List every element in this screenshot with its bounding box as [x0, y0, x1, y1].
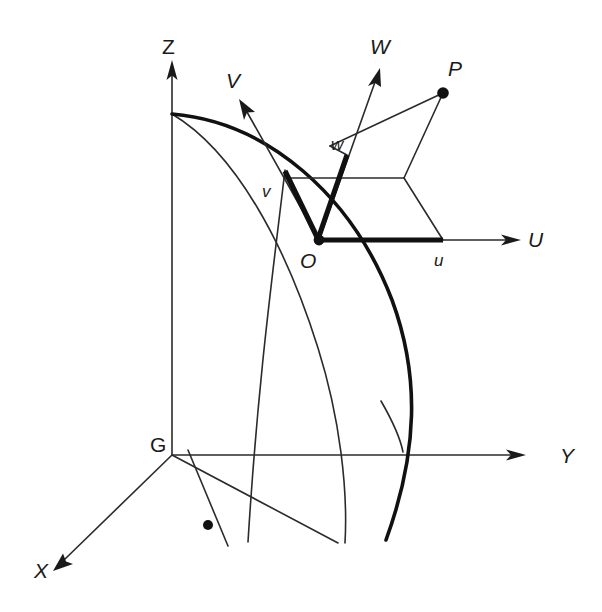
origin-g-label: G	[150, 433, 166, 456]
normal-line-at-marker	[188, 450, 228, 546]
base-edge-g-to-surface	[172, 455, 338, 543]
local-axes-group	[239, 68, 521, 246]
edge-v-right	[404, 178, 443, 240]
surface-generator-thin-right	[248, 170, 285, 542]
point-p-label: P	[448, 57, 462, 80]
point-o-dot	[314, 235, 325, 246]
component-w-label: w	[331, 135, 345, 154]
points-group	[203, 87, 449, 530]
point-surface-marker-dot	[203, 520, 213, 530]
point-p-dot	[437, 87, 449, 99]
vector-components-group	[285, 155, 443, 242]
u-axis-label: U	[528, 228, 544, 251]
component-u-label: u	[434, 251, 444, 270]
component-v-label: v	[262, 182, 272, 201]
point-o-label: O	[300, 249, 316, 272]
edge-w-to-p	[404, 93, 443, 178]
y-axis-label: Y	[560, 444, 576, 467]
edge-o-to-p	[330, 93, 443, 146]
v-axis-label: V	[226, 69, 242, 92]
x-axis-line	[64, 455, 172, 560]
x-axis-arrowhead	[53, 554, 73, 572]
v-axis-arrowhead	[239, 99, 255, 120]
global-axes-group	[53, 60, 526, 571]
component-w-segment	[317, 155, 347, 242]
surface-tick-curve	[381, 401, 403, 452]
x-axis-label: X	[33, 559, 49, 582]
vector-diagram: Z Y X G U V W O P u v w	[0, 0, 602, 612]
w-axis-label: W	[370, 35, 392, 58]
figure-container: Z Y X G U V W O P u v w	[0, 0, 602, 612]
z-axis-label: Z	[162, 35, 175, 58]
